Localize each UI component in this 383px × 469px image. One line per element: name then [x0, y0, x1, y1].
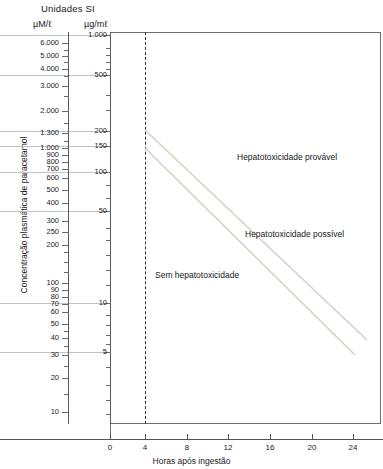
right-axis-minor-tick — [106, 185, 111, 186]
left-axis-tick — [62, 283, 69, 284]
left-axis-unit-label: µM/ℓ — [33, 19, 51, 29]
left-axis-tick — [62, 245, 69, 246]
x-axis-tick — [145, 434, 146, 440]
left-axis-minor-tick — [64, 262, 69, 263]
left-axis-minor-tick — [64, 62, 69, 63]
right-axis-tick-label: 150 — [94, 142, 107, 150]
x-axis-tick — [353, 434, 354, 440]
left-axis-tick-label: 2.000 — [40, 107, 59, 115]
left-axis-tick-label: 400 — [46, 199, 59, 207]
left-axis-tick-label: 6.000 — [40, 39, 59, 47]
left-axis-tick — [62, 43, 69, 44]
left-axis-tick — [62, 69, 69, 70]
left-axis-minor-tick — [64, 297, 69, 298]
right-axis-minor-tick — [106, 69, 111, 70]
left-axis-tick — [62, 162, 69, 163]
right-axis-minor-tick — [106, 62, 111, 63]
x-axis-tick-label: 4 — [143, 443, 147, 452]
x-axis-title: Horas após ingestão — [0, 456, 383, 466]
left-axis-tick — [62, 178, 69, 179]
left-axis-tick-label: 600 — [46, 174, 59, 182]
x-axis-tick-label: 8 — [185, 443, 189, 452]
right-axis-minor-tick — [106, 285, 111, 286]
left-axis-tick — [62, 56, 69, 57]
x-axis-tick — [187, 434, 188, 440]
left-axis-tick-label: 4.000 — [40, 65, 59, 73]
left-axis-tick — [62, 338, 69, 339]
left-axis-tick-label: 3.000 — [40, 82, 59, 90]
x-axis-tick-label: 0 — [108, 443, 112, 452]
x-axis-tick-label: 12 — [224, 443, 233, 452]
zone-label-none: Sem hepatotoxicidade — [155, 270, 239, 280]
x-axis-tick-label: 20 — [308, 443, 317, 452]
x-axis-tick — [110, 434, 111, 440]
x-axis-tick-label: 16 — [266, 443, 275, 452]
right-axis-minor-tick — [106, 255, 111, 256]
right-axis-minor-tick — [106, 240, 111, 241]
left-axis-tick — [62, 232, 69, 233]
left-axis-tick — [62, 378, 69, 379]
left-axis-minor-tick — [64, 290, 69, 291]
left-axis-tick-label: 30 — [51, 351, 59, 359]
left-axis-tick — [62, 86, 69, 87]
left-axis-tick-label: 5.000 — [40, 52, 59, 60]
right-axis-minor-tick — [106, 110, 111, 111]
left-axis-minor-tick — [64, 123, 69, 124]
left-axis-tick — [62, 155, 69, 156]
left-axis-tick-label: 20 — [51, 374, 59, 382]
left-axis-tick-label: 50 — [51, 320, 59, 328]
zone-label-probable: Hepatotoxicidade provável — [237, 152, 337, 162]
four-hour-marker-line — [145, 32, 146, 424]
zone-label-possible: Hepatotoxicidade possível — [245, 229, 344, 239]
left-axis-tick — [62, 190, 69, 191]
y-axis-title: Concentração plasmática de paracetamol — [19, 115, 29, 315]
right-axis-minor-tick — [106, 335, 111, 336]
right-axis-minor-tick — [106, 198, 111, 199]
left-axis-minor-tick — [64, 304, 69, 305]
left-axis-tick-label: 500 — [46, 186, 59, 194]
x-axis-tick — [270, 434, 271, 440]
left-axis-tick-label: 60 — [51, 308, 59, 316]
x-axis-tick-label: 24 — [349, 443, 358, 452]
left-axis-minor-tick — [64, 394, 69, 395]
left-axis-tick — [62, 412, 69, 413]
right-axis-unit-label: µg/mℓ — [84, 19, 107, 29]
right-axis-tick-label: 50 — [99, 207, 107, 215]
left-axis-minor-tick — [64, 96, 69, 97]
x-axis-tick — [312, 434, 313, 440]
left-axis-tick-label: 300 — [46, 217, 59, 225]
right-axis-tick-label: 500 — [94, 71, 107, 79]
right-axis-minor-tick — [106, 400, 111, 401]
left-axis-tick — [62, 133, 69, 134]
right-axis-minor-tick — [106, 325, 111, 326]
left-axis-tick-label: 700 — [46, 165, 59, 173]
left-axis-tick — [62, 148, 69, 149]
right-axis-minor-tick — [106, 367, 111, 368]
left-axis-tick — [62, 111, 69, 112]
left-axis-minor-tick — [64, 331, 69, 332]
units-system-title: Unidades SI — [41, 3, 95, 14]
right-axis-minor-tick — [106, 48, 111, 49]
left-axis-tick-label: 1.300 — [40, 129, 59, 137]
left-axis-tick — [62, 203, 69, 204]
right-axis-minor-tick — [106, 315, 111, 316]
left-axis-minor-tick — [64, 141, 69, 142]
left-axis-tick-label: 40 — [51, 334, 59, 342]
right-axis-tick-label: 200 — [94, 127, 107, 135]
left-axis-minor-tick — [64, 50, 69, 51]
left-axis-tick-label: 200 — [46, 241, 59, 249]
left-axis-tick — [62, 324, 69, 325]
left-axis-minor-tick — [64, 312, 69, 313]
x-axis-line — [0, 439, 383, 440]
left-axis-minor-tick — [64, 252, 69, 253]
right-axis-tick-label: 5 — [103, 348, 107, 356]
right-axis-minor-tick — [106, 95, 111, 96]
left-axis-tick — [62, 221, 69, 222]
left-axis-tick — [62, 355, 69, 356]
x-axis-tick — [228, 434, 229, 440]
left-axis-minor-tick — [64, 76, 69, 77]
plot-area — [110, 32, 381, 424]
right-axis-minor-tick — [106, 385, 111, 386]
left-axis-tick-label: 10 — [51, 408, 59, 416]
left-axis-minor-tick — [64, 346, 69, 347]
